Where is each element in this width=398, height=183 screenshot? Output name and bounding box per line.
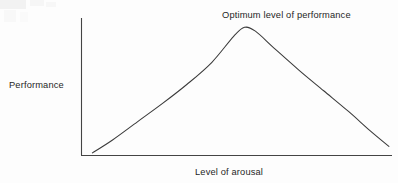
- x-axis-label: Level of arousal: [195, 167, 263, 178]
- y-axis-label: Performance: [9, 80, 64, 91]
- arousal-performance-figure: Performance Level of arousal Optimum lev…: [0, 0, 398, 183]
- chart-plot-area: [0, 0, 398, 183]
- optimum-level-annotation: Optimum level of performance: [222, 10, 351, 21]
- performance-curve: [92, 27, 389, 153]
